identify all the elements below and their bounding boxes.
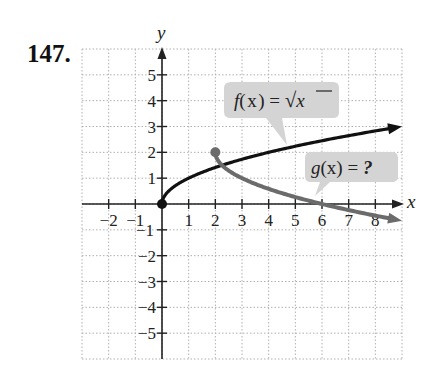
- y-tick-label: −1: [136, 221, 154, 240]
- x-tick-label: 2: [211, 211, 220, 230]
- g-arrow-icon: [387, 213, 402, 224]
- x-tick-label: −2: [100, 211, 118, 230]
- y-tick-label: 1: [148, 169, 157, 188]
- x-axis-label: x: [406, 191, 416, 212]
- x-tick-label: 3: [238, 211, 247, 230]
- x-tick-label: 6: [318, 211, 327, 230]
- x-tick-label: 5: [291, 211, 300, 230]
- y-tick-label: −4: [138, 298, 157, 317]
- y-tick-label: 2: [148, 143, 157, 162]
- x-tick-label: 4: [264, 211, 273, 230]
- y-tick-label: 4: [148, 92, 157, 111]
- y-tick-label: −5: [138, 324, 156, 343]
- x-tick-label: 1: [184, 211, 193, 230]
- coordinate-graph: −2−112345678−5−4−3−2−112345 f( x ) = √xg…: [0, 0, 436, 388]
- callout-f-text: f( x ) = √x: [234, 88, 305, 112]
- y-axis-arrow-icon: [158, 47, 167, 59]
- y-tick-label: −3: [138, 273, 156, 292]
- g-start-point: [210, 147, 220, 157]
- y-tick-label: −2: [138, 247, 156, 266]
- y-tick-label: 5: [148, 66, 157, 85]
- f-arrow-icon: [387, 123, 402, 134]
- callout-g-text: g(x) = ?: [311, 157, 372, 179]
- callouts: f( x ) = √xg(x) = ?: [224, 82, 398, 196]
- y-tick-label: 3: [148, 118, 157, 137]
- y-axis-label: y: [155, 22, 166, 43]
- x-tick-label: 7: [344, 211, 353, 230]
- f-start-point: [157, 199, 167, 209]
